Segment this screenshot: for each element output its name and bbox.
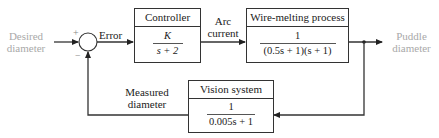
error-signal-label: Error bbox=[99, 29, 122, 41]
vision-numerator: 1 bbox=[189, 101, 273, 113]
fraction-bar bbox=[153, 43, 183, 44]
input-label-line2: diameter bbox=[0, 42, 52, 54]
output-label-line2: diameter bbox=[384, 42, 439, 54]
controller-numerator: K bbox=[135, 30, 200, 42]
input-label-line1: Desired bbox=[0, 30, 52, 42]
arc-current-line1: Arc bbox=[202, 15, 244, 27]
plus-sign: + bbox=[73, 27, 79, 38]
process-numerator: 1 bbox=[247, 30, 348, 42]
wire-melting-process-block: Wire-melting process 1 (0.5s + 1)(s + 1) bbox=[246, 8, 349, 63]
output-label-puddle-diameter: Puddle diameter bbox=[384, 30, 439, 54]
process-transfer-function: 1 (0.5s + 1)(s + 1) bbox=[247, 30, 348, 57]
vision-denominator: 0.005s + 1 bbox=[189, 116, 273, 128]
minus-sign: − bbox=[75, 50, 81, 61]
input-label-desired-diameter: Desired diameter bbox=[0, 30, 52, 54]
vision-system-block: Vision system 1 0.005s + 1 bbox=[188, 80, 274, 133]
fraction-bar bbox=[207, 114, 255, 115]
vision-transfer-function: 1 0.005s + 1 bbox=[189, 101, 273, 128]
controller-title: Controller bbox=[135, 9, 200, 27]
controller-block: Controller K s + 2 bbox=[134, 8, 201, 63]
process-denominator: (0.5s + 1)(s + 1) bbox=[247, 45, 348, 57]
measured-line1: Measured bbox=[112, 86, 182, 98]
controller-denominator: s + 2 bbox=[135, 45, 200, 57]
measured-line2: diameter bbox=[112, 98, 182, 110]
controller-transfer-function: K s + 2 bbox=[135, 30, 200, 57]
output-label-line1: Puddle bbox=[384, 30, 439, 42]
arc-current-line2: current bbox=[202, 27, 244, 39]
arc-current-label: Arc current bbox=[202, 15, 244, 39]
vision-title: Vision system bbox=[189, 81, 273, 99]
fraction-bar bbox=[260, 43, 336, 44]
measured-diameter-label: Measured diameter bbox=[112, 86, 182, 110]
process-title: Wire-melting process bbox=[247, 9, 348, 27]
